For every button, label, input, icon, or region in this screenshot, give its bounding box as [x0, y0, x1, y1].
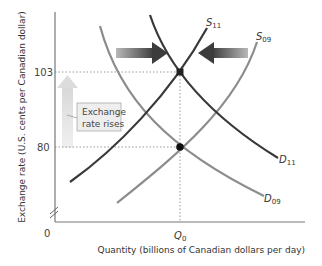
y-tick-103: 103: [34, 67, 53, 78]
note-line-2: rate rises: [82, 119, 125, 129]
exchange-rate-rises-note: Exchange rate rises: [67, 103, 126, 131]
origin-label: 0: [44, 228, 50, 239]
exchange-rate-chart: Exchange rate rises 103 80 0 Q0 Quantity…: [0, 0, 322, 266]
label-d11: D11: [279, 154, 296, 167]
x-axis-title: Quantity (billions of Canadian dollars p…: [98, 245, 305, 255]
y-tick-80: 80: [37, 142, 50, 153]
axis-break-icon: [50, 207, 58, 218]
note-line-1: Exchange: [82, 107, 126, 117]
x-tick-q0: Q0: [174, 230, 186, 243]
right-arrow-icon: [116, 42, 168, 64]
up-arrow-icon: [57, 75, 78, 148]
equilibrium-point-new: [177, 69, 184, 76]
left-arrow-icon: [198, 42, 248, 64]
equilibrium-point-initial: [176, 143, 184, 151]
label-d09: D09: [264, 193, 281, 206]
label-s09: S09: [256, 31, 271, 44]
label-s11: S11: [206, 17, 221, 30]
y-axis-title: Exchange rate (U.S. cents per Canadian d…: [17, 11, 27, 223]
